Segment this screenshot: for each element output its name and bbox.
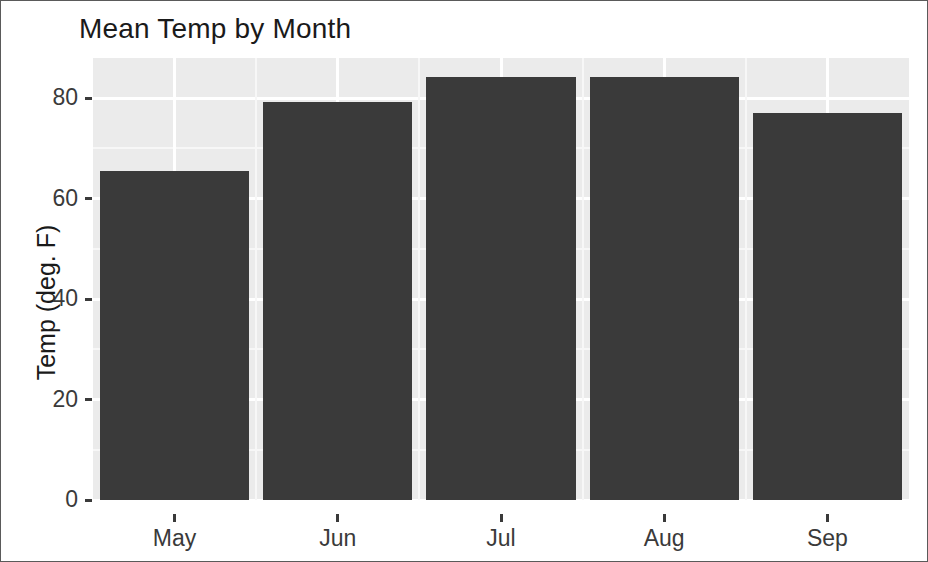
- chart-figure: Mean Temp by Month Temp (deg. F) 0204060…: [0, 0, 928, 562]
- y-tick-mark: [85, 298, 92, 301]
- y-tick-label: 80: [8, 86, 78, 109]
- x-tick-label-aug: Aug: [644, 527, 685, 550]
- y-tick-label: 0: [8, 488, 78, 511]
- y-tick-mark: [85, 398, 92, 401]
- x-tick-label-sep: Sep: [807, 527, 848, 550]
- y-tick-label: 40: [8, 287, 78, 310]
- x-tick-label-may: May: [153, 527, 196, 550]
- x-tick-mark: [826, 514, 829, 522]
- axis-tick-layer: 020406080MayJunJulAugSep: [1, 1, 927, 561]
- x-tick-label-jun: Jun: [319, 527, 356, 550]
- x-tick-mark: [663, 514, 666, 522]
- y-tick-mark: [85, 97, 92, 100]
- y-tick-label: 20: [8, 388, 78, 411]
- y-tick-mark: [85, 499, 92, 502]
- x-tick-mark: [173, 514, 176, 522]
- x-tick-mark: [500, 514, 503, 522]
- x-tick-label-jul: Jul: [486, 527, 515, 550]
- y-tick-mark: [85, 197, 92, 200]
- x-tick-mark: [336, 514, 339, 522]
- y-tick-label: 60: [8, 187, 78, 210]
